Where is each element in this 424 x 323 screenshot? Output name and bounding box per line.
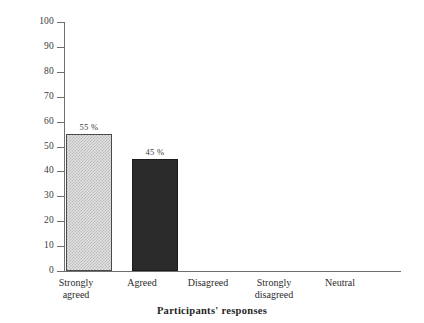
x-tick-label-line-1: Agreed — [127, 277, 156, 288]
bar-chart: Percentage 0 10 20 30 40 50 60 70 80 90 — [0, 0, 424, 323]
x-tick-label-line-1: Strongly — [59, 277, 93, 288]
y-tick-label-90: 90 — [44, 40, 54, 53]
x-tick-label-line-2: agreed — [63, 289, 90, 300]
y-tick-mark-100 — [57, 22, 64, 23]
bar-strongly-agreed[interactable] — [66, 134, 112, 271]
y-tick-mark-70 — [57, 97, 64, 98]
y-tick-mark-20 — [57, 221, 64, 222]
x-tick-label-agreed: Agreed — [109, 277, 175, 289]
y-tick-label-0: 0 — [49, 264, 54, 277]
y-tick-mark-0 — [57, 271, 64, 272]
y-tick-mark-40 — [57, 171, 64, 172]
x-tick-label-strongly-agreed: Stronglyagreed — [43, 277, 109, 301]
x-tick-label-disagreed: Disagreed — [175, 277, 241, 289]
y-tick-mark-60 — [57, 122, 64, 123]
x-tick-label-neutral: Neutral — [307, 277, 373, 289]
y-tick-mark-30 — [57, 196, 64, 197]
bar-slot-neutral — [330, 22, 376, 271]
bar-slot-agreed: 45 % — [132, 22, 178, 271]
bar-value-agreed: 45 % — [132, 147, 178, 157]
y-tick-mark-80 — [57, 72, 64, 73]
y-tick-label-20: 20 — [44, 214, 54, 227]
y-tick-label-30: 30 — [44, 189, 54, 202]
y-tick-mark-90 — [57, 47, 64, 48]
x-tick-label-line-1: Disagreed — [188, 277, 229, 288]
x-tick-label-strongly-disagreed: Stronglydisagreed — [241, 277, 307, 301]
y-tick-label-100: 100 — [39, 15, 54, 28]
x-axis-title: Participants' responses — [0, 305, 424, 316]
bar-agreed[interactable] — [132, 159, 178, 271]
bar-slot-strongly-disagreed — [264, 22, 310, 271]
x-axis-line — [64, 271, 401, 272]
y-tick-label-40: 40 — [44, 164, 54, 177]
plot-area: 55 % 45 % — [64, 22, 400, 271]
y-tick-mark-10 — [57, 246, 64, 247]
y-tick-mark-50 — [57, 147, 64, 148]
x-tick-label-line-1: Strongly — [257, 277, 291, 288]
y-tick-label-80: 80 — [44, 65, 54, 78]
y-tick-label-60: 60 — [44, 115, 54, 128]
y-tick-label-10: 10 — [44, 239, 54, 252]
y-tick-label-70: 70 — [44, 90, 54, 103]
y-tick-label-50: 50 — [44, 140, 54, 153]
bar-slot-disagreed — [198, 22, 244, 271]
bar-value-strongly-agreed: 55 % — [66, 122, 112, 132]
x-tick-label-line-2: disagreed — [255, 289, 293, 300]
bar-slot-strongly-agreed: 55 % — [66, 22, 112, 271]
x-tick-label-line-1: Neutral — [325, 277, 355, 288]
